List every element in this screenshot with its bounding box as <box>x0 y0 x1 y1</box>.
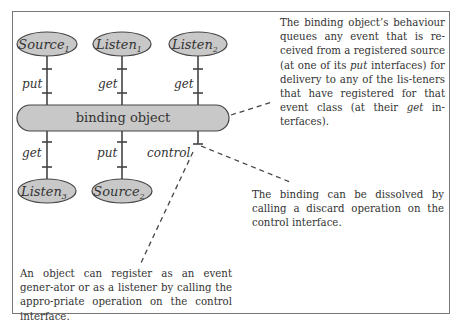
node-label: Listen2 <box>171 37 218 54</box>
control-label: control <box>147 146 190 160</box>
note-dissolve: The binding can be dissolved by calling … <box>252 188 444 231</box>
note-behaviour: The binding object’s behaviour queues an… <box>280 16 445 130</box>
interface-label: get <box>98 77 118 91</box>
note-register: An object can register as an event gener… <box>20 267 232 324</box>
interface-label: get <box>22 146 42 160</box>
binding-label: binding object <box>76 110 171 125</box>
node-label: Listen3 <box>20 184 67 201</box>
node-label: Source2 <box>93 184 144 201</box>
interface-label: put <box>97 146 117 160</box>
node-label: Source1 <box>18 37 69 54</box>
interface-label: get <box>174 77 194 91</box>
interface-label: put <box>22 77 42 91</box>
node-label: Listen1 <box>95 37 142 54</box>
